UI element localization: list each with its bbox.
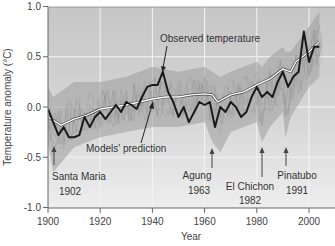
x-tick-label: 1940	[141, 216, 164, 227]
x-axis-ticks: 190019201940196019802000	[37, 208, 321, 227]
y-axis-ticks: 1.00.50.0-0.5-1.0	[24, 1, 48, 213]
y-tick-label: -1.0	[24, 202, 42, 213]
agung-label: Agung	[183, 170, 212, 181]
y-axis-title: Temperature anomaly (°C)	[2, 48, 13, 165]
pinatubo-year: 1991	[286, 185, 309, 196]
x-tick-label: 1900	[37, 216, 60, 227]
x-axis-title: Year	[181, 231, 202, 242]
x-tick-label: 2000	[298, 216, 321, 227]
santa-maria-year: 1902	[59, 186, 82, 197]
x-tick-label: 1960	[193, 216, 216, 227]
observed-temperature-label: Observed temperature	[160, 33, 260, 44]
y-tick-label: -0.5	[24, 152, 42, 163]
agung-year: 1963	[188, 185, 211, 196]
y-tick-label: 0.5	[27, 51, 41, 62]
x-tick-label: 1920	[89, 216, 112, 227]
y-tick-label: 0.0	[27, 102, 41, 113]
santa-maria-label: Santa Maria	[52, 171, 106, 182]
x-tick-label: 1980	[246, 216, 269, 227]
y-tick-label: 1.0	[27, 1, 41, 12]
temperature-anomaly-chart: 1.00.50.0-0.5-1.0 1900192019401960198020…	[0, 0, 335, 246]
models-prediction-label: Models' prediction	[86, 143, 166, 154]
el-chichon-label: El Chichon	[226, 181, 274, 192]
el-chichon-year: 1982	[239, 195, 262, 206]
pinatubo-label: Pinatubo	[277, 170, 317, 181]
